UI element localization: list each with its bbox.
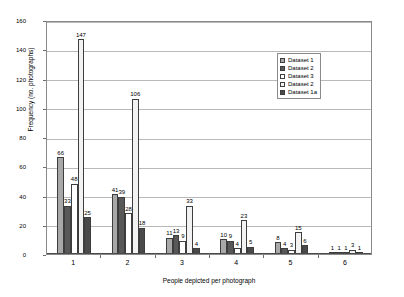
bar [57,157,64,254]
bar [64,206,71,254]
bar-value-label: 9 [219,233,241,239]
legend-swatch-icon [280,74,285,79]
x-axis-tick-mark [100,255,101,258]
x-axis-tick-label: 5 [271,259,311,266]
bar [241,220,248,254]
legend-item: Dataset 1 [280,56,317,64]
gridline [47,139,371,140]
bar-group: 66334814725 [57,22,91,254]
legend-swatch-icon [280,90,285,95]
bar [166,238,173,254]
x-axis-tick-label: 4 [216,259,256,266]
y-axis-title: Frequency (no. photographs) [27,10,34,170]
bar [84,217,91,254]
bar [132,99,139,254]
bar-value-label: 6 [294,238,316,244]
x-axis-tick-mark [209,255,210,258]
y-axis-tick-label: 120 [0,77,26,83]
axis-baseline [47,253,371,254]
legend-label: Dataset 1 [288,57,314,63]
gridline [47,109,371,110]
legend-item: Dataset 2 [280,80,317,88]
bar-group: 41392810618 [112,22,146,254]
legend-swatch-icon [280,82,285,87]
x-axis-tick-mark [318,255,319,258]
x-axis-tick-label: 1 [53,259,93,266]
bar-group: 1094235 [220,22,254,254]
gridline [47,80,371,81]
bar-value-label: 106 [124,91,146,97]
bar [71,184,78,254]
legend-label: Dataset 2 [288,81,314,87]
legend-label: Dataset 2 [288,65,314,71]
plot-area: 6633481472541392810618111393341094235843… [46,21,372,255]
bar-value-label: 66 [50,150,72,156]
x-axis-tick-label: 3 [162,259,202,266]
bar-value-label: 23 [233,213,255,219]
bar [186,206,193,254]
bar-chart: Frequency (no. photographs) 020406080100… [0,0,404,297]
legend-item: Dataset 3 [280,72,317,80]
bar-value-label: 4 [185,241,207,247]
bar-value-label: 5 [240,239,262,245]
legend-label: Dataset 1a [288,89,317,95]
x-axis-title: People depicted per photograph [46,277,372,285]
bar-value-label: 33 [179,198,201,204]
gridline [47,226,371,227]
legend-label: Dataset 3 [288,73,314,79]
bar-group: 11139334 [166,22,200,254]
bar-value-label: 39 [111,189,133,195]
y-axis-tick-label: 0 [0,252,26,258]
x-axis-tick-label: 6 [325,259,365,266]
bar-value-label: 147 [70,32,92,38]
x-axis-tick-label: 2 [108,259,148,266]
x-axis-tick-mark [263,255,264,258]
legend-item: Dataset 1a [280,88,317,96]
y-axis-tick-label: 20 [0,223,26,229]
y-axis-tick-label: 140 [0,47,26,53]
bar [112,194,119,254]
legend-swatch-icon [280,58,285,63]
bar [139,228,146,254]
y-axis-tick-label: 160 [0,18,26,24]
gridline [47,197,371,198]
gridline [47,168,371,169]
bar [78,39,85,254]
y-axis-tick-label: 80 [0,135,26,141]
legend-swatch-icon [280,66,285,71]
y-axis-tick-mark [43,255,46,256]
bar-group: 11131 [329,22,363,254]
y-axis-tick-label: 60 [0,164,26,170]
y-axis-tick-label: 100 [0,106,26,112]
gridline [47,51,371,52]
x-axis-tick-mark [155,255,156,258]
gridline [47,22,371,23]
legend: Dataset 1Dataset 2Dataset 3Dataset 2Data… [277,53,321,99]
bar-value-label: 1 [348,245,370,251]
bar-value-label: 25 [77,210,99,216]
y-axis-tick-label: 40 [0,194,26,200]
bar-value-label: 15 [287,225,309,231]
legend-item: Dataset 2 [280,64,317,72]
bar-value-label: 18 [131,220,153,226]
